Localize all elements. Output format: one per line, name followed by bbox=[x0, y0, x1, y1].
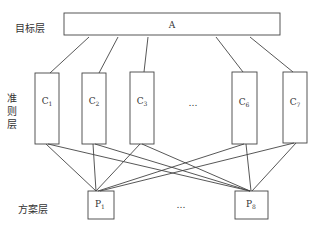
criterion-node-c3-label: C3 bbox=[137, 96, 148, 107]
criterion-node-c1-label: C1 bbox=[42, 96, 53, 107]
criteria-ellipsis: … bbox=[189, 98, 198, 108]
criterion-node-c7-box bbox=[283, 72, 307, 143]
criteria-layer-label: 准 则 层 bbox=[6, 92, 18, 131]
goal-layer-label: 目标层 bbox=[15, 20, 45, 35]
ahp-hierarchy-diagram: A C1 C2 C3 C6 C7 … P1 P8 … bbox=[0, 0, 317, 233]
criteria-p8-links bbox=[48, 143, 296, 191]
criterion-node-c6-label: C6 bbox=[239, 97, 250, 108]
alternative-node-p1-label: P1 bbox=[95, 199, 105, 210]
goal-criteria-links bbox=[50, 37, 293, 73]
goal-node-label: A bbox=[168, 20, 176, 30]
criterion-node-c3-box bbox=[130, 72, 154, 144]
criterion-node-c2-label: C2 bbox=[89, 96, 100, 107]
criterion-node-c6-box bbox=[232, 72, 257, 144]
criterion-node-c7-label: C7 bbox=[290, 97, 301, 108]
criterion-node-c2-box bbox=[82, 73, 106, 144]
alternative-layer-label: 方案层 bbox=[18, 201, 48, 216]
criterion-node-c1-box bbox=[35, 73, 59, 144]
criteria-layer-char-3: 层 bbox=[6, 118, 18, 131]
alternatives-ellipsis: … bbox=[177, 200, 186, 210]
alternative-node-p8-label: P8 bbox=[246, 199, 256, 210]
criteria-layer-char-1: 准 bbox=[6, 92, 18, 105]
criteria-layer-char-2: 则 bbox=[6, 105, 18, 118]
